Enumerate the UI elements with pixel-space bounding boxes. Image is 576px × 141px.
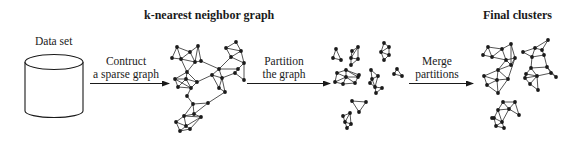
graph-node <box>239 49 243 53</box>
graph-node <box>195 80 199 84</box>
graph-edge <box>197 75 212 82</box>
graph-edge <box>488 47 502 49</box>
graph-node <box>500 120 504 124</box>
graph-edge <box>193 103 208 104</box>
partitioned-subgraphs <box>331 41 404 130</box>
graph-node <box>191 102 195 106</box>
graph-node <box>392 72 396 76</box>
graph-node <box>496 108 500 112</box>
graph-node <box>182 114 186 118</box>
graph-node <box>196 44 200 48</box>
graph-node <box>370 77 374 81</box>
graph-node <box>335 71 339 75</box>
graph-edge <box>511 44 515 58</box>
graph-node <box>192 112 196 116</box>
final-cluster-small <box>490 100 521 130</box>
graph-edge <box>497 80 498 93</box>
graph-node <box>349 122 353 126</box>
graph-node <box>341 114 345 118</box>
graph-node <box>364 100 368 104</box>
graph-edge <box>219 57 231 69</box>
graph-node <box>533 46 537 50</box>
graph-node <box>554 75 558 79</box>
graph-node <box>357 73 361 77</box>
graph-node <box>529 66 533 70</box>
graph-node <box>193 60 197 64</box>
graph-node <box>536 88 540 92</box>
graph-node <box>545 65 549 69</box>
graph-node <box>233 71 237 75</box>
graph-node <box>343 120 347 124</box>
graph-edge <box>181 59 187 72</box>
graph-node <box>331 56 335 60</box>
graph-node <box>500 47 504 51</box>
graph-node <box>356 45 360 49</box>
graph-node <box>540 48 544 52</box>
graph-node <box>373 85 377 89</box>
graph-node <box>175 45 179 49</box>
graph-node <box>185 94 189 98</box>
graph-node <box>185 70 189 74</box>
graph-node <box>376 74 380 78</box>
arrow2-label-line2: the graph <box>262 68 305 81</box>
graph-edge <box>187 62 195 72</box>
graph-node <box>495 78 499 82</box>
graph-edge <box>201 61 219 69</box>
graph-node <box>242 61 246 65</box>
graph-node <box>345 126 349 130</box>
graph-edge <box>198 46 201 61</box>
graph-node <box>513 56 517 60</box>
graph-node <box>350 49 354 53</box>
graph-edge <box>226 48 241 51</box>
graph-node <box>513 100 517 104</box>
graph-edge <box>537 73 551 76</box>
graph-node <box>369 68 373 72</box>
graph-node <box>509 63 513 67</box>
graph-node <box>546 38 550 42</box>
graph-node <box>482 74 486 78</box>
graph-node <box>333 80 337 84</box>
graph-node <box>535 74 539 78</box>
graph-node <box>348 111 352 115</box>
graph-node <box>521 50 525 54</box>
graph-node <box>530 55 534 59</box>
graph-node <box>220 76 224 80</box>
graph-node <box>382 58 386 62</box>
graph-node <box>549 71 553 75</box>
graph-edge <box>502 109 509 122</box>
graph-node <box>344 75 348 79</box>
graph-node <box>341 82 345 86</box>
graph-node <box>217 67 221 71</box>
graph-node <box>490 116 494 120</box>
graph-node <box>223 90 227 94</box>
graph-edge <box>181 59 195 62</box>
graph-node <box>524 72 528 76</box>
graph-node <box>395 67 399 71</box>
graph-node <box>184 124 188 128</box>
graph-node <box>502 126 506 130</box>
graph-node <box>387 45 391 49</box>
final-clusters-title: Final clusters <box>483 8 552 22</box>
graph-node <box>501 100 505 104</box>
knn-clustering-pipeline-diagram: k-nearest neighbor graph Final clusters … <box>0 0 576 141</box>
arrow1-label-line2: a sparse graph <box>93 68 159 81</box>
graph-node <box>188 50 192 54</box>
graph-edge <box>498 79 508 93</box>
graph-edge <box>492 57 506 60</box>
graph-node <box>236 67 240 71</box>
graph-node <box>374 91 378 95</box>
graph-edge <box>498 70 508 79</box>
graph-node <box>509 42 513 46</box>
graph-node <box>178 129 182 133</box>
graph-node <box>344 68 348 72</box>
graph-node <box>170 56 174 60</box>
arrow3-label-line1: Merge <box>422 55 452 68</box>
graph-node <box>507 107 511 111</box>
graph-node <box>496 91 500 95</box>
final-clusters-graph <box>481 38 558 95</box>
graph-edge <box>352 101 366 102</box>
graph-node <box>199 115 203 119</box>
graph-node <box>504 58 508 62</box>
graph-node <box>494 124 498 128</box>
graph-node <box>339 58 343 62</box>
